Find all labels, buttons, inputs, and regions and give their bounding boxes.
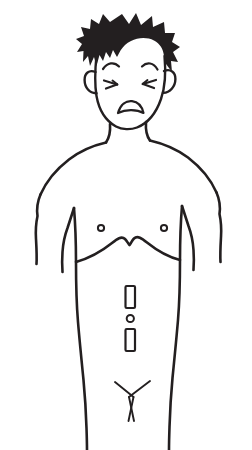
lower-midline-incision-mark[interactable] — [126, 329, 136, 351]
arm-right-outer-line — [217, 193, 222, 263]
eye-right — [143, 80, 157, 88]
eyebrow-right — [142, 63, 158, 69]
illustration-svg — [0, 0, 252, 450]
pubic-mark-icon — [115, 381, 150, 421]
shoulder-right-line — [150, 141, 217, 193]
armpit-left-notch — [62, 208, 74, 272]
abdominal-markings-group — [115, 286, 150, 421]
neck-left-line — [106, 124, 110, 143]
navel-icon — [127, 315, 134, 322]
eye-left-lower-stroke — [106, 85, 117, 89]
eye-left — [104, 81, 118, 89]
nipple-left-icon — [98, 225, 104, 231]
costal-margin-line — [76, 237, 180, 262]
arm-left-outer-line — [36, 195, 41, 265]
neck-right-line — [146, 122, 150, 141]
pubic-mark-right-arm — [129, 381, 150, 397]
mouth — [118, 101, 144, 113]
shoulder-left-line — [41, 143, 107, 195]
eye-right-lower-stroke — [143, 84, 154, 88]
torso-illustration: Grimacing shirtless male torso with abdo… — [0, 0, 252, 450]
head-group — [76, 13, 180, 129]
eyebrow-left — [103, 63, 119, 69]
armpit-right-notch — [182, 206, 194, 270]
upper-midline-incision-mark[interactable] — [126, 286, 136, 308]
torso-right-side — [169, 206, 182, 450]
nipple-right-icon — [161, 225, 167, 231]
torso-left-side — [74, 208, 87, 450]
